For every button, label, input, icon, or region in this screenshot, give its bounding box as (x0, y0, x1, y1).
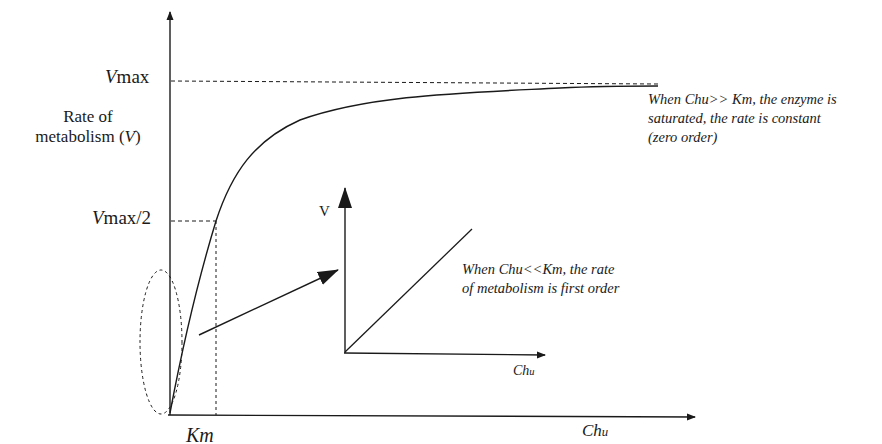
first-order-region-ellipse (140, 270, 182, 414)
x-axis-label: Chu (582, 421, 608, 441)
zoom-arrow (199, 270, 338, 335)
y-axis-label: Rate of metabolism (V) (22, 107, 154, 146)
first-order-note: When Chu<<Km, the rate of metabolism is … (462, 260, 692, 298)
inset-x-label: Chu (513, 363, 535, 379)
inset-y-label: V (319, 203, 330, 220)
main-x-axis (168, 415, 695, 417)
km-label: Km (186, 424, 214, 444)
vmax-dashed-line (171, 81, 658, 84)
saturation-curve (170, 86, 658, 413)
inset-x-axis (344, 353, 545, 355)
inset-linear-line (345, 229, 472, 352)
vmax-label: Vmax (105, 66, 149, 88)
saturation-note: When Chu>> Km, the enzyme is saturated, … (648, 90, 882, 147)
vmax-half-label: Vmax/2 (92, 207, 151, 229)
